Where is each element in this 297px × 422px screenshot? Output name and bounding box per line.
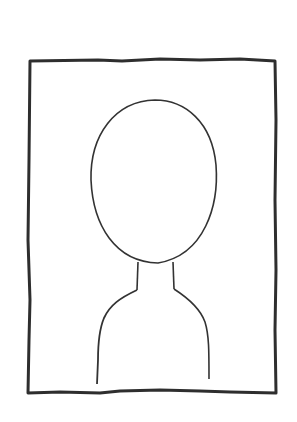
shoulder-right <box>174 289 209 379</box>
neck-left <box>137 262 138 290</box>
picture-frame <box>28 59 276 393</box>
head-outline <box>91 100 216 263</box>
shoulder-left <box>97 290 137 384</box>
neck-right <box>173 262 174 289</box>
portrait-sketch <box>0 0 297 422</box>
